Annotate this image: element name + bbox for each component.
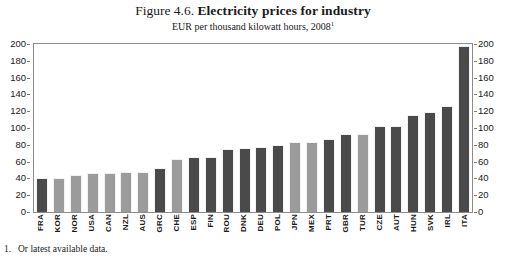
x-label-text: ROU bbox=[223, 214, 231, 232]
y-tick-label-180: 180 bbox=[474, 56, 504, 66]
y-tick-label-20: 20 bbox=[0, 190, 30, 200]
y-axis-left: 020406080100120140160180200 bbox=[0, 43, 30, 213]
x-label-che: CHE bbox=[171, 214, 183, 246]
x-label-text: USA bbox=[88, 214, 96, 232]
x-label-nor: NOR bbox=[69, 214, 81, 246]
y-tick-label-180: 180 bbox=[0, 56, 30, 66]
y-tick-mark bbox=[474, 44, 477, 45]
bar-cze bbox=[374, 126, 386, 212]
x-label-text: KOR bbox=[54, 214, 62, 232]
x-label-irl: IRL bbox=[442, 214, 454, 246]
bar-can bbox=[104, 173, 116, 212]
x-label-fin: FIN bbox=[205, 214, 217, 246]
y-tick-label-40: 40 bbox=[474, 173, 504, 183]
x-label-aus: AUS bbox=[137, 214, 149, 246]
y-tick-label-160: 160 bbox=[0, 73, 30, 83]
x-label-text: CAN bbox=[105, 214, 113, 232]
x-label-text: AUT bbox=[393, 214, 401, 231]
y-tick-label-200: 200 bbox=[474, 39, 504, 49]
figure-subtitle-text: EUR per thousand kilowatt hours, 2008 bbox=[172, 21, 331, 32]
y-tick-label-140: 140 bbox=[0, 89, 30, 99]
figure-footnote: 1.Or latest available data. bbox=[4, 243, 502, 255]
bar-prt bbox=[323, 139, 335, 212]
x-label-deu: DEU bbox=[255, 214, 267, 246]
x-label-text: ESP bbox=[190, 214, 198, 231]
bar-nzl bbox=[120, 172, 132, 212]
bar-nor bbox=[70, 175, 82, 212]
y-tick-mark bbox=[474, 195, 477, 196]
y-tick-mark bbox=[27, 195, 30, 196]
y-tick-label-80: 80 bbox=[474, 140, 504, 150]
y-tick-label-20: 20 bbox=[474, 190, 504, 200]
x-label-pol: POL bbox=[272, 214, 284, 246]
y-tick-label-0: 0 bbox=[474, 207, 504, 217]
x-label-text: FRA bbox=[37, 214, 45, 231]
x-axis-category-labels: FRAKORNORUSACANNZLAUSGRCCHEESPFINROUDNKD… bbox=[33, 214, 473, 246]
x-label-nzl: NZL bbox=[120, 214, 132, 246]
x-label-text: MEX bbox=[308, 214, 316, 232]
bar-tur bbox=[357, 134, 369, 212]
bar-fin bbox=[205, 157, 217, 212]
bar-series bbox=[34, 44, 472, 212]
x-label-text: TUR bbox=[359, 214, 367, 231]
figure-title-block: Figure 4.6. Electricity prices for indus… bbox=[0, 0, 506, 33]
y-tick-label-60: 60 bbox=[0, 157, 30, 167]
footnote-number: 1. bbox=[4, 243, 18, 255]
x-label-svk: SVK bbox=[425, 214, 437, 246]
bar-fra bbox=[36, 178, 48, 212]
y-tick-label-40: 40 bbox=[0, 173, 30, 183]
y-tick-mark bbox=[474, 162, 477, 163]
y-tick-mark bbox=[27, 178, 30, 179]
figure-subtitle-footnote-marker: 1 bbox=[331, 20, 334, 27]
y-tick-mark bbox=[27, 162, 30, 163]
y-axis-right: 020406080100120140160180200 bbox=[474, 43, 504, 213]
x-label-aut: AUT bbox=[391, 214, 403, 246]
x-label-text: CHE bbox=[173, 214, 181, 232]
y-tick-mark bbox=[27, 212, 30, 213]
x-label-text: GRC bbox=[156, 214, 164, 232]
y-tick-label-120: 120 bbox=[474, 106, 504, 116]
x-label-text: FIN bbox=[207, 214, 215, 228]
bar-ita bbox=[458, 46, 470, 212]
bar-jpn bbox=[289, 142, 301, 212]
x-label-text: HUN bbox=[410, 214, 418, 232]
y-tick-mark bbox=[27, 145, 30, 146]
x-label-mex: MEX bbox=[306, 214, 318, 246]
y-tick-mark bbox=[474, 178, 477, 179]
x-label-text: AUS bbox=[139, 214, 147, 232]
bar-rou bbox=[222, 149, 234, 212]
y-tick-mark bbox=[474, 61, 477, 62]
x-label-text: POL bbox=[274, 214, 282, 231]
x-label-esp: ESP bbox=[188, 214, 200, 246]
y-tick-mark bbox=[474, 128, 477, 129]
bar-hun bbox=[407, 115, 419, 212]
footnote-text: Or latest available data. bbox=[18, 244, 108, 254]
figure-subtitle: EUR per thousand kilowatt hours, 20081 bbox=[0, 20, 506, 33]
bar-deu bbox=[255, 147, 267, 213]
y-tick-label-100: 100 bbox=[0, 123, 30, 133]
y-tick-mark bbox=[27, 128, 30, 129]
y-tick-label-140: 140 bbox=[474, 89, 504, 99]
figure-number: Figure 4.6. bbox=[135, 3, 194, 18]
y-tick-mark bbox=[474, 212, 477, 213]
x-label-hun: HUN bbox=[408, 214, 420, 246]
x-label-rou: ROU bbox=[221, 214, 233, 246]
y-tick-mark bbox=[27, 61, 30, 62]
y-tick-mark bbox=[27, 44, 30, 45]
bar-che bbox=[171, 159, 183, 212]
x-label-text: DEU bbox=[257, 214, 265, 232]
x-label-text: NOR bbox=[71, 214, 79, 232]
bar-irl bbox=[441, 106, 453, 212]
x-label-can: CAN bbox=[103, 214, 115, 246]
x-label-text: CZE bbox=[376, 214, 384, 231]
y-tick-mark bbox=[27, 94, 30, 95]
figure-title-text: Electricity prices for industry bbox=[197, 3, 370, 18]
y-tick-label-100: 100 bbox=[474, 123, 504, 133]
x-label-dnk: DNK bbox=[238, 214, 250, 246]
bar-svk bbox=[424, 112, 436, 212]
x-label-fra: FRA bbox=[35, 214, 47, 246]
x-label-prt: PRT bbox=[323, 214, 335, 246]
x-label-gbr: GBR bbox=[340, 214, 352, 246]
x-label-tur: TUR bbox=[357, 214, 369, 246]
figure-electricity-prices: Figure 4.6. Electricity prices for indus… bbox=[0, 0, 506, 261]
